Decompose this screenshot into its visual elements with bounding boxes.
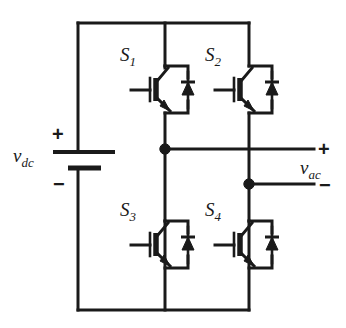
switch-s2-device[interactable] <box>215 66 279 113</box>
switch-s3-device[interactable] <box>131 221 195 268</box>
switch-s4-device[interactable] <box>215 221 279 268</box>
switch-s1-label: S1 <box>120 45 136 68</box>
dc-voltage-source-symbol <box>53 152 115 168</box>
dc-source-plus-sign: + <box>52 124 64 144</box>
circuit-diagram: S1 S2 S3 S4 vdc + − vac + − <box>0 0 346 328</box>
switch-s3-label: S3 <box>120 200 136 223</box>
ac-output-wires <box>165 149 314 184</box>
ac-output-label: vac <box>300 158 321 181</box>
switch-s4-label: S4 <box>205 200 221 223</box>
ac-output-minus-sign: − <box>319 175 331 195</box>
switch-s1-device[interactable] <box>131 66 195 113</box>
s3-diode-triangle <box>182 237 194 250</box>
s2-collector-slant <box>242 68 252 80</box>
s4-diode-triangle <box>266 237 278 250</box>
s1-diode-triangle <box>182 82 194 95</box>
dc-source-label: vdc <box>13 146 34 169</box>
dc-source-minus-sign: − <box>53 174 65 194</box>
switch-s2-label: S2 <box>205 45 221 68</box>
s2-diode-triangle <box>266 82 278 95</box>
s1-collector-slant <box>158 68 168 80</box>
circuit-schematic-canvas <box>0 0 346 328</box>
ac-output-plus-sign: + <box>318 139 330 159</box>
